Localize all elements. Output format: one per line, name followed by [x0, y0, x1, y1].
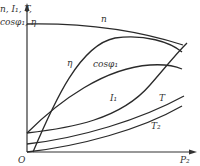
label-eta: η: [67, 58, 73, 68]
y-axis-label-1: n, I₁, T,: [0, 4, 32, 14]
x-axis-arrow-icon: [189, 150, 197, 155]
label-T: T: [159, 93, 166, 103]
x-axis-label: P₂: [179, 155, 190, 165]
label-cosphi: cosφ₁: [93, 59, 118, 69]
origin-label: O: [18, 155, 26, 165]
label-I1: I₁: [109, 93, 117, 103]
characteristic-diagram: n, I₁, T, cosφ₁, η n η cosφ₁ I₁ T T₂ O P…: [0, 0, 200, 166]
label-n: n: [101, 14, 107, 24]
y-axis-label-2: cosφ₁, η: [0, 17, 37, 27]
curve-I1: [27, 43, 187, 133]
label-T2: T₂: [151, 121, 161, 131]
